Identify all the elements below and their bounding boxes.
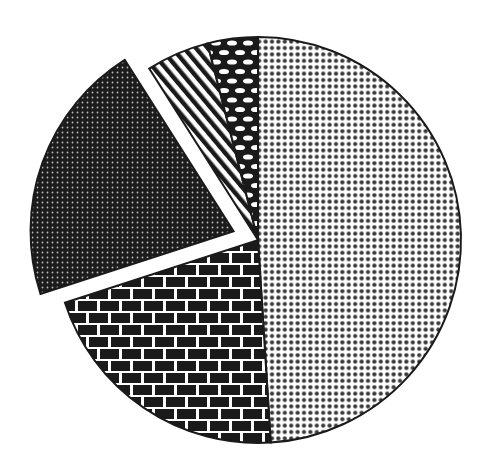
pie-slices: Dotted slice: 49Brick slice: 21Dark expl… xyxy=(31,37,461,443)
pie-chart-svg: Dotted slice: 49Brick slice: 21Dark expl… xyxy=(0,0,494,473)
pie-slice-fine-dots: Dotted slice: 49 xyxy=(258,37,461,443)
